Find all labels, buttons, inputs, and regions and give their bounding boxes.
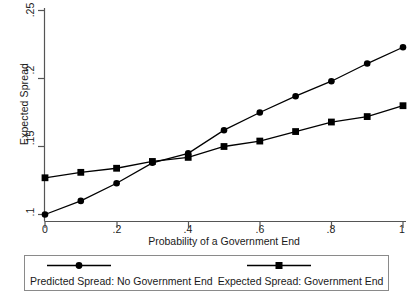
data-point-square <box>149 158 156 165</box>
legend-key-square <box>247 262 311 269</box>
data-point-circle <box>292 93 299 100</box>
data-point-circle <box>328 78 335 85</box>
legend-key-circle <box>47 262 111 269</box>
data-point-square <box>77 169 84 176</box>
legend-keys <box>25 256 390 273</box>
legend-label-government-end: Expected Spread: Government End <box>218 272 384 291</box>
series-layer <box>42 44 407 218</box>
data-point-circle <box>257 109 264 116</box>
data-point-square <box>185 154 192 161</box>
data-point-circle <box>78 198 85 205</box>
data-point-square <box>256 138 263 145</box>
data-point-circle <box>400 44 407 51</box>
data-point-square <box>364 113 371 120</box>
chart-canvas <box>0 0 413 246</box>
chart-legend: Predicted Spread: No Government End Expe… <box>24 255 389 291</box>
data-point-circle <box>221 127 228 134</box>
data-point-square <box>400 102 407 109</box>
data-point-square <box>221 143 228 150</box>
data-point-circle <box>42 211 49 218</box>
data-point-square <box>42 174 49 181</box>
data-point-square <box>328 119 335 126</box>
legend-key-marks <box>25 256 390 273</box>
figure: Expected Spread .25 .2 .15 .1 0 .2 .4 .6… <box>0 0 413 299</box>
legend-label-no-government-end: Predicted Spread: No Government End <box>30 272 213 291</box>
data-point-square <box>292 128 299 135</box>
legend-labels: Predicted Spread: No Government End Expe… <box>25 272 390 291</box>
series-no-government-end <box>42 44 407 218</box>
data-point-square <box>113 165 120 172</box>
data-point-circle <box>113 180 120 187</box>
data-point-circle <box>364 60 371 67</box>
series-line <box>45 106 403 178</box>
plot-area: Expected Spread .25 .2 .15 .1 0 .2 .4 .6… <box>0 0 413 246</box>
series-government-end <box>42 102 407 181</box>
y-axis-ticks <box>38 11 44 215</box>
